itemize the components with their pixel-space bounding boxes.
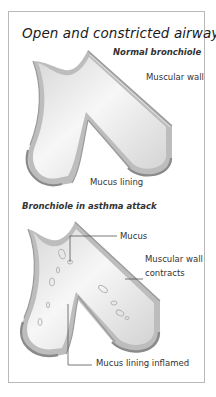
- bronchiole-diagram: [0, 0, 216, 397]
- normal-bronchiole-illustration: [27, 50, 172, 186]
- asthma-bronchiole-illustration: [21, 222, 160, 357]
